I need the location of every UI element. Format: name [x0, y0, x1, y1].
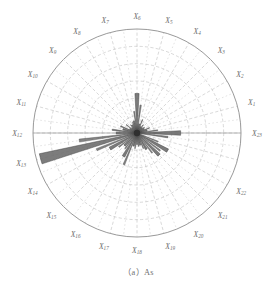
- axis-label-x2: X2: [235, 70, 244, 79]
- grid-spoke: [110, 33, 137, 133]
- grid-spoke: [137, 37, 177, 133]
- axis-label-x16: X16: [70, 230, 81, 239]
- axis-label-x23: X23: [251, 129, 262, 138]
- axis-label-x6: X6: [132, 12, 141, 21]
- axis-label-x20: X20: [193, 230, 204, 239]
- grid-spoke: [137, 59, 211, 133]
- axis-label-x11: X11: [16, 98, 27, 107]
- axis-label-x22: X22: [235, 187, 246, 196]
- rose-bar-x13: [39, 133, 137, 164]
- axis-label-x5: X5: [164, 16, 173, 25]
- axis-label-x1: X1: [247, 98, 256, 107]
- rose-bars: [39, 93, 180, 165]
- axis-label-x15: X15: [45, 211, 56, 220]
- grid-spoke: [63, 59, 137, 133]
- axis-label-x13: X13: [15, 159, 26, 168]
- grid-spoke: [137, 93, 233, 133]
- axis-label-x18: X18: [131, 246, 142, 255]
- axis-label-x17: X17: [98, 242, 109, 251]
- axis-label-x4: X4: [193, 27, 202, 36]
- grid-spoke: [97, 37, 137, 133]
- axis-label-x19: X19: [164, 242, 175, 251]
- axis-label-x7: X7: [100, 16, 109, 25]
- polar-rose-chart: X1X2X3X4X5X6X7X8X9X10X11X12X13X14X15X16X…: [0, 0, 277, 283]
- figure-caption: （a）As: [0, 265, 277, 277]
- axis-label-x10: X10: [27, 70, 38, 79]
- rose-center-hub: [134, 130, 140, 136]
- grid-spoke: [54, 70, 137, 133]
- axis-label-x14: X14: [27, 187, 38, 196]
- grid-spoke: [37, 106, 137, 133]
- grid-spoke: [137, 70, 220, 133]
- axis-label-x12: X12: [11, 129, 22, 138]
- axis-label-x21: X21: [217, 211, 228, 220]
- chart-canvas: X1X2X3X4X5X6X7X8X9X10X11X12X13X14X15X16X…: [0, 0, 277, 283]
- grid-spoke: [137, 50, 200, 133]
- axis-label-x8: X8: [72, 27, 81, 36]
- grid-spoke: [74, 50, 137, 133]
- axis-label-x9: X9: [48, 46, 57, 55]
- axis-label-x3: X3: [217, 46, 226, 55]
